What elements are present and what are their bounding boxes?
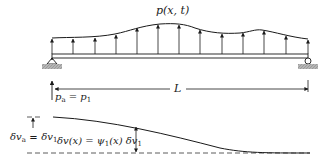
pin-support [42, 58, 62, 69]
load-curve [52, 24, 308, 39]
displacement-label: δva = δv1 [10, 132, 57, 144]
load-label: p(x, t) [156, 5, 189, 16]
span-dimension [55, 80, 308, 92]
shape-function-label: δv(x) = ψ1(x) δv1 [57, 136, 142, 148]
load-arrows [52, 25, 308, 54]
span-label: L [174, 83, 181, 94]
beam [52, 54, 308, 58]
roller-support [298, 58, 318, 69]
point-load-label: pa = p1 [55, 92, 91, 104]
